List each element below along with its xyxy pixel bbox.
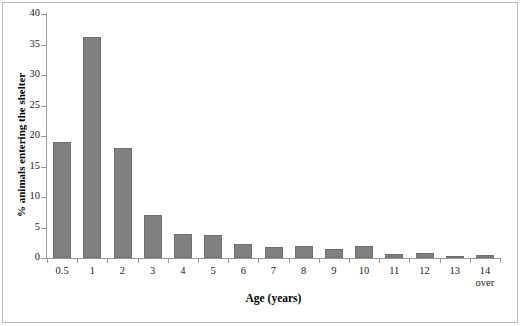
x-tick-label: 7 — [258, 265, 288, 277]
x-tick-mark — [198, 259, 199, 263]
bar-chart: 0510152025303540 0.51234567891011121314o… — [0, 0, 521, 326]
y-tick-mark — [41, 75, 46, 76]
x-tick-label: 13 — [440, 265, 470, 277]
x-tick-label: 3 — [138, 265, 168, 277]
bar — [355, 246, 373, 258]
x-tick-mark — [319, 259, 320, 263]
x-tick-sublabel: over — [470, 277, 500, 289]
bar — [83, 37, 101, 258]
y-tick-mark — [41, 14, 46, 15]
x-tick-label: 1 — [77, 265, 107, 277]
y-tick-label: 35 — [10, 39, 40, 50]
x-tick-mark — [258, 259, 259, 263]
x-tick-mark — [138, 259, 139, 263]
y-tick-label: 40 — [10, 8, 40, 19]
y-axis-title: % animals entering the shelter — [13, 50, 29, 240]
bar — [53, 142, 71, 258]
x-tick-mark — [409, 259, 410, 263]
bar — [174, 234, 192, 258]
bar — [265, 247, 283, 258]
bar — [114, 148, 132, 258]
x-tick-mark — [349, 259, 350, 263]
x-tick-label: 9 — [319, 265, 349, 277]
x-tick-label: 0.5 — [47, 265, 77, 277]
x-tick-label: 14over — [470, 265, 500, 289]
y-tick-mark — [41, 228, 46, 229]
x-tick-mark — [168, 259, 169, 263]
y-tick-label: 0 — [10, 252, 40, 263]
y-tick-mark — [41, 258, 46, 259]
x-tick-label: 11 — [379, 265, 409, 277]
x-tick-mark — [289, 259, 290, 263]
x-tick-label: 10 — [349, 265, 379, 277]
x-tick-mark — [379, 259, 380, 263]
bar — [295, 246, 313, 258]
x-tick-mark — [440, 259, 441, 263]
x-tick-mark — [47, 259, 48, 263]
x-tick-label: 4 — [168, 265, 198, 277]
chart-page: 0510152025303540 0.51234567891011121314o… — [0, 0, 521, 326]
y-tick-mark — [41, 197, 46, 198]
bar — [446, 256, 464, 258]
bar — [325, 249, 343, 258]
y-tick-mark — [41, 106, 46, 107]
y-tick-mark — [41, 136, 46, 137]
y-tick-mark — [41, 45, 46, 46]
plot-area — [47, 14, 500, 258]
x-tick-mark — [77, 259, 78, 263]
x-tick-label: 12 — [409, 265, 439, 277]
bar — [234, 244, 252, 258]
x-tick-label: 5 — [198, 265, 228, 277]
x-tick-label: 2 — [107, 265, 137, 277]
bar — [204, 235, 222, 258]
x-tick-mark — [228, 259, 229, 263]
x-tick-label: 6 — [228, 265, 258, 277]
bar — [385, 254, 403, 258]
x-tick-mark — [500, 259, 501, 263]
x-tick-label: 8 — [289, 265, 319, 277]
x-axis-line — [46, 258, 501, 259]
bar — [476, 255, 494, 258]
y-tick-mark — [41, 167, 46, 168]
x-axis-title: Age (years) — [47, 292, 500, 304]
bar — [416, 253, 434, 258]
bar — [144, 215, 162, 258]
x-tick-mark — [470, 259, 471, 263]
x-tick-mark — [107, 259, 108, 263]
